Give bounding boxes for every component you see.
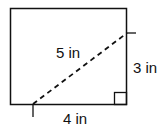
diagonal-label: 5 in <box>56 44 80 61</box>
height-label: 3 in <box>133 59 157 76</box>
base-label: 4 in <box>63 110 87 127</box>
right-angle-marker <box>115 93 127 105</box>
